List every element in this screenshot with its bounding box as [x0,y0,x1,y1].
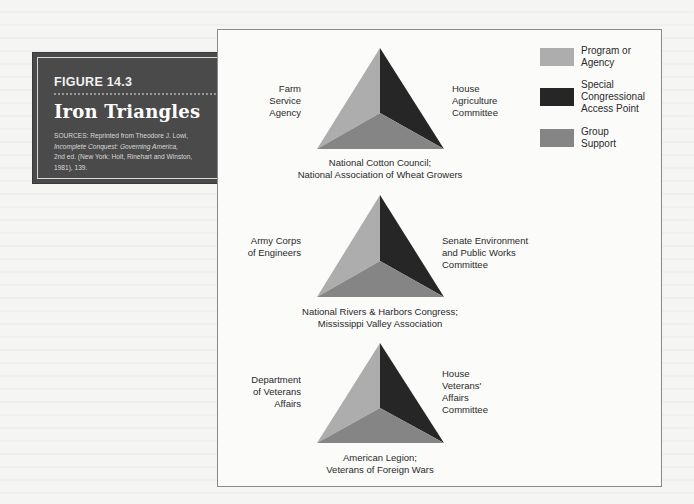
source-line-1: SOURCES: Reprinted from Theodore J. Lowi… [54,131,222,142]
interest-group-label: American Legion; Veterans of Foreign War… [260,452,500,476]
source-line-4: 1981), 139. [54,163,222,174]
source-line-2: Incomplete Conquest: Governing America, [54,142,222,153]
figure-caption-box: FIGURE 14.3 Iron Triangles SOURCES: Repr… [33,53,233,183]
figure-number: FIGURE 14.3 [54,75,216,95]
committee-label: House Veterans' Affairs Committee [442,368,488,416]
figure-caption-inner-border: FIGURE 14.3 Iron Triangles SOURCES: Repr… [37,57,229,179]
source-line-3: 2nd ed. (New York: Holt, Rinehart and Wi… [54,152,222,163]
figure-source: SOURCES: Reprinted from Theodore J. Lowi… [54,131,222,173]
iron-triangle-veterans [218,30,663,488]
agency-label: Department of Veterans Affairs [218,374,301,410]
diagram-frame: Program or Agency Special Congressional … [217,29,662,487]
figure-title: Iron Triangles [54,101,220,122]
